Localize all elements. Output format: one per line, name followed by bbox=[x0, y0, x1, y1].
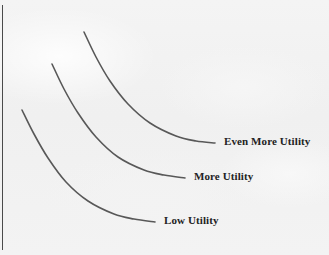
curve-group bbox=[22, 32, 215, 222]
curve-label-even-more-utility: Even More Utility bbox=[224, 135, 310, 147]
indifference-curve-1 bbox=[52, 64, 185, 178]
indifference-curve-figure: Low Utility More Utility Even More Utili… bbox=[0, 0, 329, 255]
curve-label-low-utility: Low Utility bbox=[164, 214, 219, 226]
curve-label-more-utility: More Utility bbox=[194, 170, 253, 182]
indifference-curve-2 bbox=[84, 32, 215, 143]
